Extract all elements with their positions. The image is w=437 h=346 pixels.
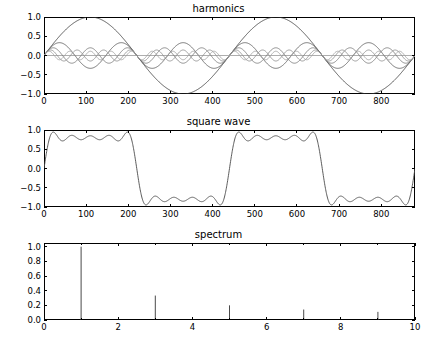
square-wave-xtick [128, 130, 129, 133]
spectrum-ytick [44, 290, 47, 291]
spectrum-ytick [412, 261, 415, 262]
harmonics-xtick-label: 0 [41, 97, 46, 106]
square-wave-xtick-label: 800 [373, 210, 389, 219]
spectrum-xtick-minor [229, 243, 230, 245]
harmonics-ytick [412, 17, 415, 18]
spectrum-xtick-label: 10 [410, 323, 421, 332]
panel-square-wave: square wave −1.0−0.50.00.51.001002003004… [0, 113, 437, 226]
panel-harmonics: harmonics −1.0−0.50.00.51.00100200300400… [0, 0, 437, 113]
square-wave-xtick [86, 204, 87, 207]
spectrum-xtick [266, 317, 267, 320]
spectrum-xtick [44, 317, 45, 320]
square-wave-xtick [170, 130, 171, 133]
square-wave-ytick [44, 187, 47, 188]
harmonics-xtick [86, 17, 87, 20]
spectrum-ytick-label: 0.4 [27, 287, 41, 295]
spectrum-ytick [44, 305, 47, 306]
harmonics-xtick-label: 700 [331, 97, 347, 106]
spectrum-xtick-label: 6 [264, 323, 269, 332]
harmonics-ytick [44, 36, 47, 37]
square-wave-xtick-label: 200 [120, 210, 136, 219]
spectrum-xtick [266, 243, 267, 246]
plot-area-spectrum: 0.00.20.40.60.81.00246810 [44, 243, 415, 320]
square-wave-xtick-label: 400 [205, 210, 221, 219]
spectrum-xtick-minor [229, 318, 230, 320]
harmonics-xtick [339, 91, 340, 94]
spectrum-xtick [118, 243, 119, 246]
spectrum-xtick [118, 317, 119, 320]
square-wave-ytick [412, 149, 415, 150]
square-wave-xtick-label: 0 [41, 210, 46, 219]
harmonics-ytick [44, 74, 47, 75]
harmonics-xtick [170, 17, 171, 20]
square-wave-xtick [339, 130, 340, 133]
spectrum-ytick-label: 0.6 [27, 272, 41, 280]
harmonics-xtick [128, 91, 129, 94]
harmonics-xtick-label: 200 [120, 97, 136, 106]
square-wave-ytick [412, 187, 415, 188]
spectrum-xtick-minor [81, 318, 82, 320]
spectrum-ytick [44, 276, 47, 277]
spectrum-xtick-minor [377, 243, 378, 245]
spectrum-xtick [340, 243, 341, 246]
harmonics-xtick [212, 91, 213, 94]
harmonics-xtick [44, 17, 45, 20]
square-wave-curve [44, 130, 415, 207]
spectrum-xtick-minor [155, 243, 156, 245]
square-wave-xtick [296, 204, 297, 207]
square-wave-xtick [381, 204, 382, 207]
square-wave-ytick-label: 1.0 [27, 126, 41, 134]
spectrum-xtick-label: 2 [115, 323, 120, 332]
plot-area-harmonics: −1.0−0.50.00.51.001002003004005006007008… [44, 17, 415, 94]
harmonics-ytick-label: 1.0 [27, 13, 41, 21]
panel-square-wave-title: square wave [0, 116, 437, 128]
square-wave-xtick-label: 500 [247, 210, 263, 219]
square-wave-xtick [254, 130, 255, 133]
square-wave-ytick-label: −0.5 [20, 184, 41, 192]
harmonics-xtick [296, 91, 297, 94]
spectrum-ytick-label: 0.0 [27, 316, 41, 324]
spectrum-xtick [415, 243, 416, 246]
spectrum-xtick-minor [377, 318, 378, 320]
harmonics-xtick [339, 17, 340, 20]
square-wave-xtick-label: 300 [162, 210, 178, 219]
harmonics-xtick-label: 800 [373, 97, 389, 106]
square-wave-ytick [412, 168, 415, 169]
harmonics-ytick-label: −0.5 [20, 71, 41, 79]
spectrum-ytick [412, 290, 415, 291]
square-wave-ytick [412, 130, 415, 131]
spectrum-xtick-minor [303, 318, 304, 320]
harmonics-xtick-label: 600 [289, 97, 305, 106]
square-wave-xtick [254, 204, 255, 207]
harmonics-xtick [170, 91, 171, 94]
spectrum-bars [44, 243, 415, 320]
harmonics-xtick [212, 17, 213, 20]
square-wave-xtick [296, 130, 297, 133]
spectrum-ytick [412, 276, 415, 277]
square-wave-ytick [412, 207, 415, 208]
spectrum-xtick [44, 243, 45, 246]
spectrum-ytick [412, 305, 415, 306]
spectrum-bar-3 [155, 296, 156, 320]
square-wave-ytick-label: 0.0 [27, 165, 41, 173]
panel-harmonics-title: harmonics [0, 3, 437, 15]
spectrum-xtick-label: 8 [338, 323, 343, 332]
harmonics-xtick [128, 17, 129, 20]
spectrum-xtick-label: 0 [41, 323, 46, 332]
harmonics-ytick [412, 74, 415, 75]
figure-canvas: harmonics −1.0−0.50.00.51.00100200300400… [0, 0, 437, 346]
spectrum-ytick-label: 0.2 [27, 301, 41, 309]
panel-spectrum: spectrum 0.00.20.40.60.81.00246810 [0, 226, 437, 346]
square-wave-xtick [44, 204, 45, 207]
spectrum-xtick [192, 243, 193, 246]
spectrum-xtick [192, 317, 193, 320]
square-wave-xtick [339, 204, 340, 207]
spectrum-ytick [44, 246, 47, 247]
harmonics-xtick [381, 17, 382, 20]
harmonics-ytick [412, 55, 415, 56]
harmonics-curves [44, 17, 415, 94]
harmonics-ytick [412, 36, 415, 37]
harmonics-xtick [296, 17, 297, 20]
spectrum-xtick-minor [303, 243, 304, 245]
square-wave-ytick [44, 149, 47, 150]
